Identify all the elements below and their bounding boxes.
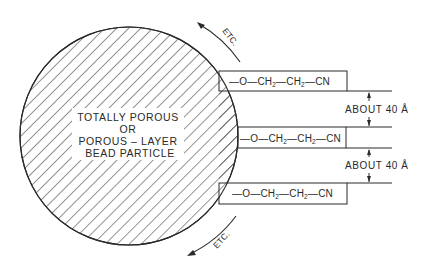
particle-label-line-3: POROUS – LAYER — [78, 135, 177, 147]
spacing-dimension-2: ABOUT 40 Å — [345, 149, 409, 182]
arrow-up-icon — [367, 92, 371, 98]
etc-label-top: ETC. — [220, 26, 240, 47]
particle-label-line-1: TOTALLY POROUS — [77, 111, 179, 123]
arrowhead-icon — [187, 250, 196, 256]
bonded-chain-1: —O—CH2—CH2—CN — [219, 71, 347, 91]
bonded-chain-3: —O—CH2—CH2—CN — [219, 183, 347, 204]
spacing-label: ABOUT 40 Å — [345, 159, 409, 171]
bonded-phase-diagram: TOTALLY POROUS OR POROUS – LAYER BEAD PA… — [0, 0, 423, 272]
arrowhead-icon — [197, 22, 205, 29]
spacing-label: ABOUT 40 Å — [345, 103, 409, 115]
chain-formula: —O—CH2—CH2—CN — [229, 76, 330, 88]
chain-formula: —O—CH2—CH2—CN — [232, 188, 333, 200]
spacing-dimension-1: ABOUT 40 Å — [345, 92, 409, 126]
particle-label-line-2: OR — [120, 123, 137, 135]
etc-label-bottom: ETC. — [211, 229, 231, 250]
bonded-chain-2: —O—CH2—CH2—CN — [238, 127, 346, 148]
arrow-down-icon — [367, 176, 371, 182]
chain-formula: —O—CH2—CH2—CN — [240, 133, 341, 145]
bead-particle: TOTALLY POROUS OR POROUS – LAYER BEAD PA… — [20, 27, 238, 245]
arrow-up-icon — [367, 149, 371, 155]
arrow-down-icon — [367, 120, 371, 126]
particle-label-line-4: BEAD PARTICLE — [85, 147, 175, 159]
